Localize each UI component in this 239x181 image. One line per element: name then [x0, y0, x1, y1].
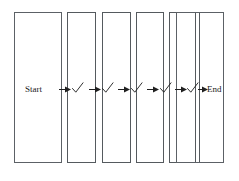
start-label: Start [25, 85, 42, 94]
check-mark-icon [131, 82, 143, 94]
right-arrow-icon [59, 85, 71, 94]
check-mark-icon [102, 82, 114, 94]
check-mark-icon [160, 82, 172, 94]
right-arrow-icon [89, 85, 101, 94]
diagram-canvas: Start End [0, 0, 239, 181]
right-arrow-icon [198, 85, 208, 94]
right-arrow-icon [175, 85, 187, 94]
right-arrow-icon [147, 85, 159, 94]
check-mark-icon [187, 82, 199, 94]
end-label: End [207, 85, 222, 94]
check-mark-icon [72, 82, 84, 94]
right-arrow-icon [118, 85, 130, 94]
